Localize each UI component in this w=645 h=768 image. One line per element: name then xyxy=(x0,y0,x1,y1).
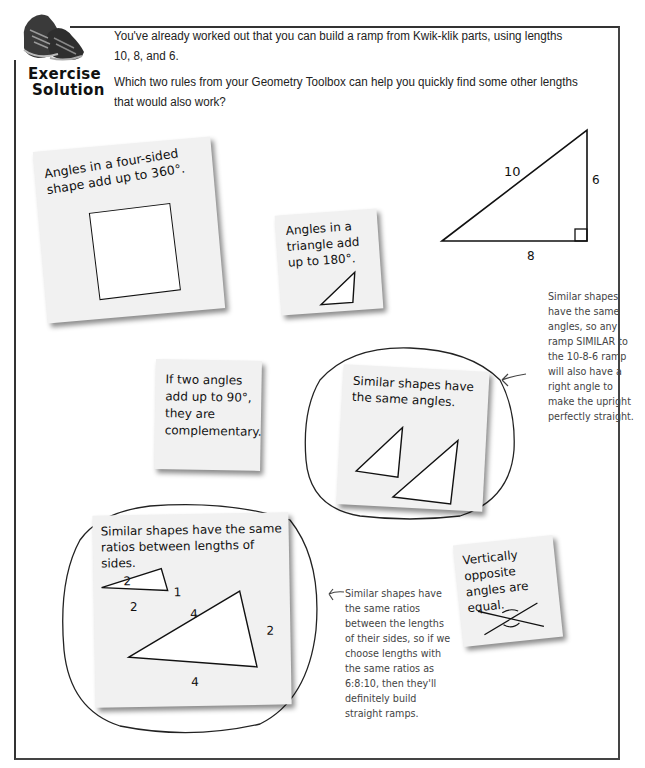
small-side-label: 1 xyxy=(174,584,182,600)
note-complementary-angles: If two angles add up to 90°, they are co… xyxy=(154,359,262,471)
large-side-label: 2 xyxy=(266,623,274,639)
arrow-icon xyxy=(326,588,346,602)
arrow-icon xyxy=(498,372,528,388)
note-vertical-angles: Vertically opposite angles are equal. xyxy=(453,535,563,647)
large-top-label: 4 xyxy=(190,606,198,622)
crossing-lines-shape xyxy=(473,596,548,639)
note-four-sided-angles: Angles in a four-sided shape add up to 3… xyxy=(33,137,225,324)
upright-label: 6 xyxy=(592,172,600,188)
similar-triangles-shape xyxy=(351,417,479,507)
hypotenuse-label: 10 xyxy=(504,164,521,180)
sneakers-icon xyxy=(18,8,88,62)
note-text: Angles in a triangle add up to 180°. xyxy=(285,217,378,271)
note-text: Angles in a four-sided shape add up to 3… xyxy=(43,143,196,198)
small-top-label: 2 xyxy=(123,573,131,589)
annotation-similar-ratios: Similar shapes have the same ratios betw… xyxy=(345,586,455,721)
annotation-similar-angles: Similar shapes have the same angles, so … xyxy=(548,289,642,424)
exercise-intro: You've already worked out that you can b… xyxy=(114,26,579,118)
note-text: Similar shapes have the same angles. xyxy=(352,373,485,412)
note-similar-ratios: Similar shapes have the same ratios betw… xyxy=(92,512,291,707)
badge-line-1: Exercise xyxy=(28,66,105,82)
note-text: If two angles add up to 90°, they are co… xyxy=(165,371,258,441)
intro-line-2: Which two rules from your Geometry Toolb… xyxy=(114,72,579,112)
badge-line-2: Solution xyxy=(32,82,105,98)
small-base-label: 2 xyxy=(130,599,138,615)
intro-line-1: You've already worked out that you can b… xyxy=(114,26,579,66)
small-triangle-shape xyxy=(315,268,368,311)
square-shape xyxy=(89,203,181,300)
note-triangle-angles: Angles in a triangle add up to 180°. xyxy=(275,209,384,316)
exercise-solution-badge: Exercise Solution xyxy=(28,66,105,98)
base-label: 8 xyxy=(527,248,535,264)
large-base-label: 4 xyxy=(191,674,199,690)
note-similar-angles: Similar shapes have the same angles. xyxy=(336,364,489,511)
